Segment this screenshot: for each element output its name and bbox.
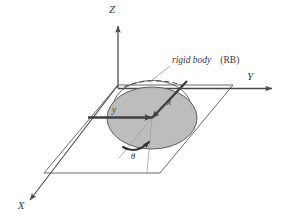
body-y-vector-label: y — [111, 105, 117, 115]
body-x-vector-label: x — [166, 97, 172, 107]
figure-container: Z Y X y x θ rigid body (RB) — [0, 0, 281, 216]
x-axis-line — [30, 85, 118, 200]
x-axis-label: X — [17, 199, 26, 211]
rigid-body-callout-italic: rigid body — [172, 55, 212, 65]
rigid-body-leader-line — [151, 66, 170, 81]
z-axis-label: Z — [109, 3, 116, 15]
rigid-body-diagram-svg: Z Y X y x θ rigid body (RB) — [0, 0, 281, 216]
theta-angle-label: θ — [131, 151, 136, 161]
rigid-body-callout-upright: (RB) — [220, 55, 239, 66]
y-axis-label: Y — [247, 70, 255, 82]
rigid-body-callout-text: rigid body (RB) — [172, 49, 239, 66]
